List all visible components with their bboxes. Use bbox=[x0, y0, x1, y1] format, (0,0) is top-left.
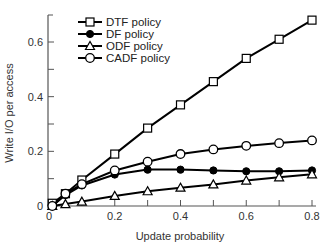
square-marker-icon bbox=[308, 16, 316, 24]
y-tick-label: 0.2 bbox=[28, 145, 43, 157]
open-circle-marker-icon bbox=[308, 136, 317, 145]
legend-label: CADF policy bbox=[106, 52, 170, 64]
legend: DTF policyDF policyODF policyCADF policy bbox=[78, 16, 170, 64]
square-marker-icon bbox=[242, 54, 250, 62]
square-marker-icon bbox=[86, 18, 94, 26]
filled-circle-marker-icon bbox=[144, 166, 151, 173]
x-tick-label: 0.4 bbox=[173, 210, 188, 222]
open-circle-marker-icon bbox=[275, 139, 284, 148]
square-marker-icon bbox=[144, 124, 152, 132]
y-axis-label: Write I/O per access bbox=[3, 63, 15, 163]
filled-circle-marker-icon bbox=[177, 166, 184, 173]
legend-label: DF policy bbox=[106, 28, 154, 40]
y-tick-label: 0.4 bbox=[28, 91, 43, 103]
open-circle-marker-icon bbox=[143, 157, 152, 166]
y-tick-label: 0.6 bbox=[28, 36, 43, 48]
legend-label: ODF policy bbox=[106, 40, 163, 52]
filled-circle-marker-icon bbox=[86, 30, 93, 37]
legend-item: DF policy bbox=[78, 28, 154, 40]
open-circle-marker-icon bbox=[242, 142, 251, 151]
square-marker-icon bbox=[209, 78, 217, 86]
filled-circle-marker-icon bbox=[243, 168, 250, 175]
legend-label: DTF policy bbox=[106, 16, 161, 28]
open-circle-marker-icon bbox=[110, 166, 119, 175]
line-chart: 00.20.40.60.800.20.40.6 DTF policyDF pol… bbox=[0, 0, 332, 247]
open-circle-marker-icon bbox=[78, 180, 87, 189]
y-tick-label: 0 bbox=[37, 200, 43, 212]
open-circle-marker-icon bbox=[176, 150, 185, 159]
open-circle-marker-icon bbox=[209, 145, 218, 154]
legend-item: DTF policy bbox=[78, 16, 161, 28]
x-tick-label: 0.8 bbox=[304, 210, 319, 222]
square-marker-icon bbox=[177, 101, 185, 109]
x-tick-label: 0.2 bbox=[107, 210, 122, 222]
open-circle-marker-icon bbox=[86, 54, 95, 63]
open-circle-marker-icon bbox=[48, 202, 57, 211]
x-tick-label: 0.6 bbox=[239, 210, 254, 222]
square-marker-icon bbox=[111, 150, 119, 158]
open-circle-marker-icon bbox=[61, 189, 70, 198]
legend-item: ODF policy bbox=[78, 40, 163, 52]
square-marker-icon bbox=[275, 35, 283, 43]
x-tick-label: 0 bbox=[46, 210, 52, 222]
x-axis-label: Update probability bbox=[136, 230, 225, 242]
legend-item: CADF policy bbox=[78, 52, 170, 64]
filled-circle-marker-icon bbox=[210, 167, 217, 174]
